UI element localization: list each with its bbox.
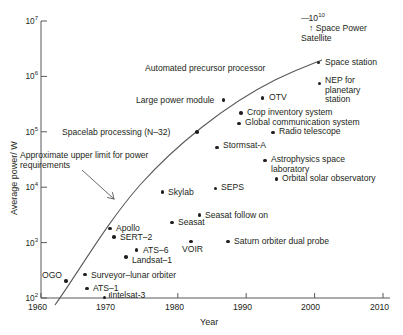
point-stormsat-a bbox=[215, 146, 219, 150]
point-ogo bbox=[64, 279, 68, 283]
point-sert-2 bbox=[112, 235, 116, 239]
point-skylab bbox=[161, 190, 165, 194]
label-spacelab-processing: Spacelab processing (N–32) bbox=[62, 128, 170, 138]
point-nep-for-planetary-station bbox=[318, 82, 322, 86]
label-intelsat-3: Intelsat-3 bbox=[110, 291, 145, 301]
x-tick-label-2010: 2010 bbox=[370, 302, 389, 312]
point-orbital-solar-observatory bbox=[275, 177, 279, 181]
spsat-exponent: 10 bbox=[318, 12, 325, 18]
spsat-value: 10 bbox=[309, 13, 319, 23]
point-ats-6 bbox=[135, 248, 139, 252]
upper-limit-annotation: Approximate upper limit for power requir… bbox=[20, 150, 150, 170]
label-orbital-solar-observatory: Orbital solar observatory bbox=[282, 174, 376, 184]
point-landsat-1 bbox=[124, 255, 128, 259]
x-tick-label-1960: 1960 bbox=[28, 302, 47, 312]
y-tick-label-10e7: 107 bbox=[14, 15, 38, 26]
y-tick-label-10e5: 105 bbox=[14, 126, 38, 137]
point-ats-1 bbox=[85, 287, 89, 291]
annotation-space-power-satellite: —1010 ↑ Space Power Satellite bbox=[301, 10, 391, 43]
x-tick-label-1970: 1970 bbox=[96, 302, 115, 312]
y-axis-title: Average power/ W bbox=[9, 141, 19, 215]
label-ogo: OGO bbox=[42, 271, 62, 281]
label-nep-for-planetary-station: NEP for planetary station bbox=[325, 76, 377, 105]
point-seasat-follow-on bbox=[198, 213, 202, 217]
label-sert-2: SERT–2 bbox=[120, 233, 152, 243]
label-seasat-follow-on: Seasat follow on bbox=[205, 211, 268, 221]
point-apollo bbox=[108, 227, 112, 231]
point-spacelab-processing bbox=[195, 130, 199, 134]
label-stormsat-a: Stormsat-A bbox=[223, 141, 266, 151]
y-tick-label-10e3: 103 bbox=[14, 237, 38, 248]
label-saturn-orbiter-dual-probe: Saturn orbiter dual probe bbox=[234, 237, 329, 247]
point-seasat bbox=[170, 221, 174, 225]
label-astrophysics-space-laboratory: Astrophysics space laboratory bbox=[271, 155, 349, 174]
curve-annotation-arrow bbox=[82, 170, 114, 199]
label-seasat: Seasat bbox=[178, 218, 205, 228]
x-tick-label-1980: 1980 bbox=[165, 302, 184, 312]
x-tick-label-2000: 2000 bbox=[301, 302, 320, 312]
dash-glyph: — bbox=[301, 13, 309, 23]
label-otv: OTV bbox=[269, 93, 287, 103]
x-tick-label-1990: 1990 bbox=[233, 302, 252, 312]
y-tick-label-10e6: 106 bbox=[14, 70, 38, 81]
x-axis-title: Year bbox=[200, 317, 218, 327]
label-large-power-module: Large power module bbox=[136, 96, 214, 106]
point-astrophysics-space-laboratory bbox=[263, 159, 267, 163]
annotation-automated-precursor-processor: Automated precursor processor bbox=[145, 64, 265, 74]
label-landsat-1: Landsat–1 bbox=[132, 256, 172, 266]
label-radio-telescope: Radio telescope bbox=[279, 127, 341, 137]
label-seps: SEPS bbox=[221, 183, 244, 193]
label-ats-6: ATS–6 bbox=[143, 246, 169, 256]
label-space-station: Space station bbox=[325, 58, 377, 68]
power-vs-year-scatter-chart: 107 106 105 104 103 102 1960 1970 1980 1… bbox=[0, 0, 403, 335]
point-surveyor-lunar-orbiter bbox=[83, 273, 87, 277]
x-tick-marks bbox=[41, 293, 383, 298]
label-skylab: Skylab bbox=[168, 188, 194, 198]
label-surveyor-lunar-orbiter: Surveyor–lunar orbiter bbox=[91, 271, 176, 281]
up-arrow-icon: ↑ bbox=[309, 23, 313, 33]
point-crop-inventory-system bbox=[239, 111, 243, 115]
label-voir: VOIR bbox=[182, 245, 203, 255]
